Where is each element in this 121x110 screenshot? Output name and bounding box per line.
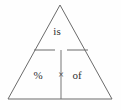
triangle-left-edge — [8, 5, 60, 99]
label-percent: % — [33, 69, 42, 81]
triangle-right-edge — [60, 5, 112, 99]
label-of: of — [72, 69, 82, 81]
label-is: is — [53, 25, 60, 37]
label-multiply: × — [58, 69, 64, 80]
triangle-canvas: is % × of — [0, 0, 121, 110]
percentage-triangle-diagram: is % × of — [0, 0, 121, 110]
